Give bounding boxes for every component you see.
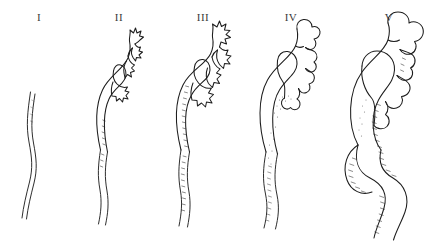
panel-grade-3: III	[160, 0, 246, 243]
panel-grade-4: IV	[246, 0, 336, 243]
panel-artwork-4	[246, 0, 336, 243]
panel-artwork-5	[336, 0, 442, 243]
panel-artwork-2	[78, 0, 160, 243]
panel-grade-2: II	[78, 0, 160, 243]
panel-grade-5: V	[336, 0, 442, 243]
panel-grade-1: I	[0, 0, 78, 243]
hydronephrosis-grading-figure: I II	[0, 0, 442, 243]
panel-artwork-1	[0, 0, 78, 243]
panel-artwork-3	[160, 0, 246, 243]
